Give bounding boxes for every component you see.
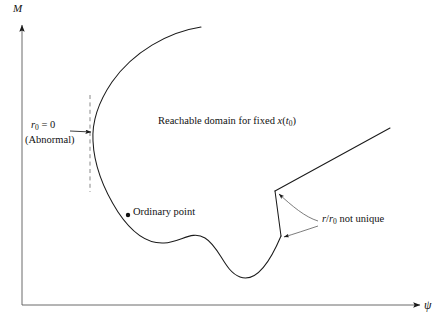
ordinary-point-label: Ordinary point [133, 206, 195, 217]
reachable-domain-label: Reachable domain for fixed x(t0) [158, 115, 296, 128]
cusp-straight-branch-line [275, 128, 390, 191]
reachable-domain-prefix: Reachable domain for fixed [158, 115, 278, 126]
cusp-pointer-arrow-upper [279, 194, 318, 221]
figure-canvas: M ψ r0 = 0 (Abnormal) Reachable domain f… [0, 0, 440, 335]
cusp-edge-curve [275, 191, 281, 236]
figure-vector-graphics [0, 0, 440, 335]
r0-equals-zero: = 0 [39, 119, 55, 130]
x-axis-label: ψ [424, 299, 431, 312]
abnormal-point-label: r0 = 0 [31, 119, 55, 132]
y-axis-label: M [13, 3, 22, 15]
r0-pointer-arrow [70, 131, 91, 132]
abnormal-qualifier-label: (Abnormal) [25, 134, 75, 145]
reachable-set-boundary-curve [93, 27, 281, 278]
cusp-pointer-arrow-lower [284, 226, 318, 237]
cusp-nonunique-label: r/r0 not unique [322, 213, 384, 226]
not-unique-suffix: not unique [337, 213, 384, 224]
ordinary-point-dot [126, 213, 130, 217]
close-paren: ) [292, 115, 296, 126]
